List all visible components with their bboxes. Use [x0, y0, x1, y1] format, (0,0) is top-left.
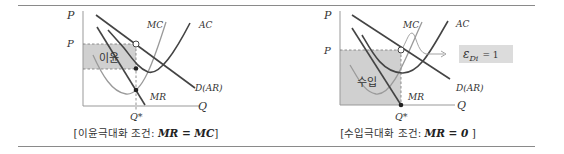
demand-label: D(AR) [194, 83, 223, 93]
profit-maximization-graph: P P Q Q* MC AC D(AR) MR 이윤 [이윤극대화 조건: MR… [66, 9, 223, 139]
quantity-label: Q* [130, 111, 143, 122]
diagram-canvas: P P Q Q* MC AC D(AR) MR 이윤 [이윤극대화 조건: MR… [0, 0, 564, 154]
ac-point [134, 66, 139, 71]
ac-label: AC [455, 19, 469, 29]
price-label: P [66, 38, 74, 49]
x-axis-label: Q [198, 100, 207, 113]
right-caption: [수입극대화 조건: MR = 0 ] [340, 127, 476, 139]
ac-label: AC [198, 20, 212, 30]
caption-text: [이윤극대화 조건: [74, 127, 158, 139]
mr-zero-point [399, 103, 404, 108]
y-axis-label: P [66, 9, 75, 22]
price-point [133, 41, 139, 47]
left-caption: [이윤극대화 조건: MR = MC] [74, 127, 219, 139]
revenue-maximization-graph: εDi= 1 P P Q Q* MC AC D(AR) MR 수입 [수입극대화… [323, 9, 513, 139]
mr-label: MR [407, 92, 424, 102]
revenue-label: 수입 [357, 76, 377, 89]
caption-close: ] [468, 127, 475, 139]
mc-label: MC [146, 20, 163, 30]
x-axis-label: Q [457, 99, 466, 112]
mr-label: MR [149, 92, 166, 102]
price-label: P [323, 45, 331, 56]
quantity-label: Q* [395, 111, 408, 122]
caption-close: ] [214, 127, 218, 139]
caption-formula: MR = 0 [424, 127, 469, 139]
mr-mc-intersection [134, 88, 139, 93]
y-axis-label: P [323, 9, 332, 22]
price-point [398, 47, 404, 53]
caption-text: [수입극대화 조건: [340, 127, 424, 139]
caption-formula: MR = MC [157, 127, 215, 139]
profit-label: 이윤 [99, 52, 119, 65]
mc-label: MC [402, 20, 419, 30]
demand-label: D(AR) [455, 83, 484, 93]
